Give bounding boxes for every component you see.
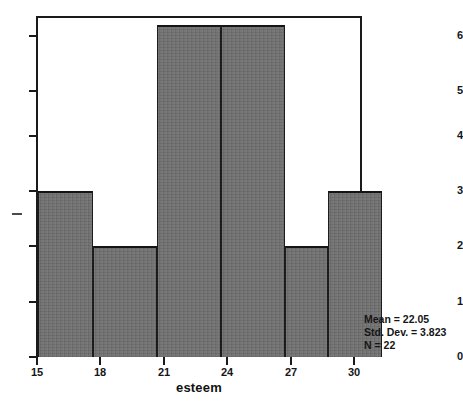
x-tick-label: 27 bbox=[276, 366, 306, 378]
x-tick-label: 18 bbox=[85, 366, 115, 378]
x-tick-label: 30 bbox=[339, 366, 369, 378]
x-tick-label: 21 bbox=[149, 366, 179, 378]
y-tick-mark bbox=[29, 35, 36, 37]
x-tick-label: 24 bbox=[212, 366, 242, 378]
y-tick-mark bbox=[29, 301, 36, 303]
histogram-bar[interactable] bbox=[157, 25, 221, 357]
x-tick-mark bbox=[290, 357, 292, 365]
histogram-bar[interactable] bbox=[285, 246, 328, 357]
y-tick-mark bbox=[29, 90, 36, 92]
y-tick-mark bbox=[29, 356, 36, 358]
histogram-bar[interactable] bbox=[38, 191, 93, 357]
x-tick-label: 15 bbox=[22, 366, 52, 378]
y-tick-mark bbox=[29, 245, 36, 247]
statistics-annotation: Mean = 22.05 Std. Dev. = 3.823 N = 22 bbox=[364, 313, 446, 352]
std-dev-label: Std. Dev. = 3.823 bbox=[364, 326, 446, 339]
y-tick-label: 4 bbox=[441, 130, 463, 141]
y-tick-label: 5 bbox=[441, 85, 463, 96]
mean-label: Mean = 22.05 bbox=[364, 313, 446, 326]
y-axis-title bbox=[11, 209, 25, 219]
y-tick-label: 6 bbox=[441, 30, 463, 41]
histogram-chart: 0 1 2 3 4 5 6 15 18 21 24 27 30 esteem M… bbox=[0, 0, 463, 407]
y-tick-label: 0 bbox=[441, 351, 463, 362]
histogram-bar[interactable] bbox=[93, 246, 157, 357]
x-tick-mark bbox=[163, 357, 165, 365]
x-tick-mark bbox=[226, 357, 228, 365]
x-tick-mark bbox=[99, 357, 101, 365]
sample-size-label: N = 22 bbox=[364, 339, 446, 352]
x-axis-title: esteem bbox=[36, 380, 362, 395]
x-tick-mark bbox=[353, 357, 355, 365]
histogram-bar[interactable] bbox=[221, 25, 285, 357]
y-tick-mark bbox=[29, 135, 36, 137]
y-tick-label: 1 bbox=[441, 296, 463, 307]
y-tick-label: 2 bbox=[441, 240, 463, 251]
x-tick-mark bbox=[36, 357, 38, 365]
y-tick-mark bbox=[29, 190, 36, 192]
plot-area bbox=[38, 18, 360, 357]
y-tick-label: 3 bbox=[441, 185, 463, 196]
